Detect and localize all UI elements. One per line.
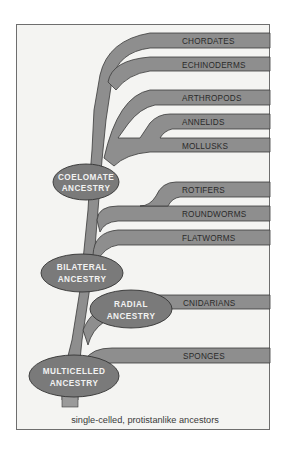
node-multicelled-line2: ANCESTRY xyxy=(50,379,99,388)
node-multicelled-line1: MULTICELLED xyxy=(43,367,106,376)
caption: single-celled, protistanlike ancestors xyxy=(71,415,219,425)
node-radial-line1: RADIAL xyxy=(114,300,148,309)
phylogenetic-tree: CHORDATES ECHINODERMS ARTHROPODS ANNELID… xyxy=(0,0,290,460)
label-mollusks: MOLLUSKS xyxy=(182,142,229,151)
label-rotifers: ROTIFERS xyxy=(182,186,225,195)
node-radial-line2: ANCESTRY xyxy=(107,312,156,321)
node-radial: RADIAL ANCESTRY xyxy=(90,290,172,328)
label-annelids: ANNELIDS xyxy=(182,118,225,127)
label-arthropods: ARTHROPODS xyxy=(182,94,242,103)
label-echinoderms: ECHINODERMS xyxy=(182,61,246,70)
node-coelomate: COELOMATE ANCESTRY xyxy=(53,164,119,200)
node-multicelled: MULTICELLED ANCESTRY xyxy=(29,355,119,397)
node-bilateral-line2: ANCESTRY xyxy=(58,275,107,284)
label-cnidarians: CNIDARIANS xyxy=(183,299,236,308)
label-roundworms: ROUNDWORMS xyxy=(182,210,247,219)
label-sponges: SPONGES xyxy=(183,352,225,361)
node-bilateral: BILATERAL ANCESTRY xyxy=(41,254,123,292)
node-coelomate-line1: COELOMATE xyxy=(58,173,114,182)
label-flatworms: FLATWORMS xyxy=(182,234,236,243)
node-bilateral-line1: BILATERAL xyxy=(57,263,107,272)
label-chordates: CHORDATES xyxy=(182,37,235,46)
node-coelomate-line2: ANCESTRY xyxy=(62,184,111,193)
